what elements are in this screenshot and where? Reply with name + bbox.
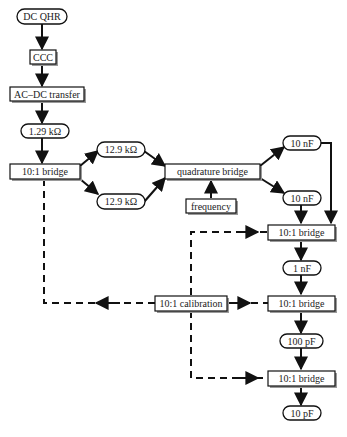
node-label: 100 pF (287, 336, 316, 347)
node-10nf-capacitor-bottom: 10 nF (283, 191, 321, 205)
edge-12.9k-bottom-quad (144, 178, 165, 202)
node-label: 10:1 bridge (279, 373, 325, 384)
node-label: 10 nF (290, 193, 314, 204)
node-1nf-capacitor: 1 nF (283, 261, 321, 275)
edge-cal-bridge3 (191, 311, 268, 378)
edge-quad-10nf-top (260, 147, 284, 166)
node-label: frequency (191, 201, 231, 212)
node-1.29k-resistor: 1.29 kΩ (21, 124, 69, 138)
edge-quad-10nf-bottom (260, 178, 284, 193)
node-label: 10:1 calibration (159, 298, 222, 309)
node-label: 10 pF (290, 408, 314, 419)
node-frequency: frequency (186, 199, 238, 215)
node-label: CCC (33, 52, 53, 63)
node-label: quadrature bridge (177, 166, 248, 177)
node-label: 10 nF (290, 138, 314, 149)
node-label: 10:1 bridge (279, 298, 325, 309)
node-quadrature-bridge: quadrature bridge (165, 164, 262, 181)
node-12.9k-resistor-bottom: 12.9 kΩ (97, 194, 145, 209)
node-12.9k-resistor-top: 12.9 kΩ (97, 142, 145, 157)
node-label: AC–DC transfer (14, 89, 80, 100)
edge-bridge-12.9k-top (80, 151, 98, 166)
calibration-chain-diagram: DC QHR CCC AC–DC transfer 1.29 kΩ 10:1 b… (0, 0, 347, 437)
node-bridge-right-2: 10:1 bridge (268, 296, 337, 313)
node-10pf-capacitor: 10 pF (283, 406, 321, 420)
node-label: 1.29 kΩ (29, 126, 61, 137)
node-label: 10:1 bridge (22, 166, 68, 177)
node-100pf-capacitor: 100 pF (280, 334, 323, 348)
node-10-1-calibration: 10:1 calibration (155, 296, 229, 313)
node-label: DC QHR (23, 11, 61, 22)
edge-cal-bridge1 (191, 232, 268, 295)
edge-10nf-top-bridge1 (320, 143, 331, 223)
node-10nf-capacitor-top: 10 nF (283, 136, 321, 150)
node-label: 10:1 bridge (279, 227, 325, 238)
node-label: 1 nF (293, 263, 312, 274)
node-bridge-right-1: 10:1 bridge (268, 225, 337, 242)
node-label: 12.9 kΩ (105, 196, 137, 207)
node-dc-qhr: DC QHR (17, 9, 67, 24)
edge-bridge-12.9k-bottom (80, 179, 98, 194)
node-ac-dc-transfer: AC–DC transfer (10, 87, 86, 103)
node-ccc: CCC (30, 50, 58, 66)
node-bridge-left: 10:1 bridge (10, 164, 82, 181)
node-bridge-right-3: 10:1 bridge (268, 371, 337, 388)
edge-12.9k-top-quad (144, 151, 165, 166)
node-label: 12.9 kΩ (105, 144, 137, 155)
